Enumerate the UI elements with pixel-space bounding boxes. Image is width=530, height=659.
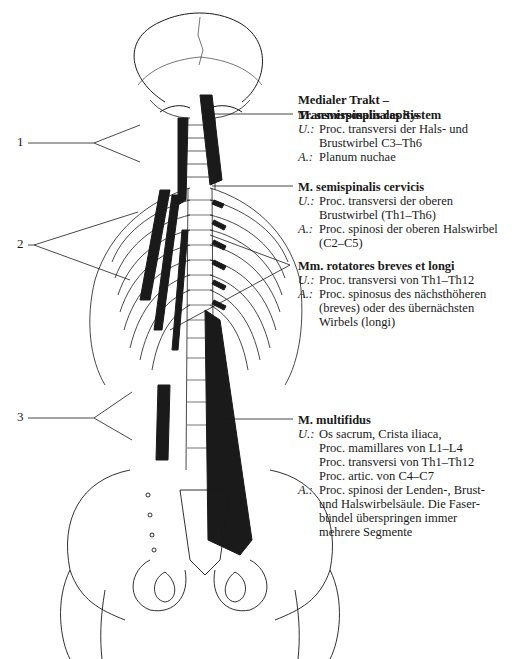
origin-line: Proc. mamillares von L1–L4 [319,441,485,455]
origin-line: Proc. artic. von C4–C7 [319,469,485,483]
insertion-line: Proc. spinosi der Lenden-, Brust- [319,483,485,497]
origin-key: U.: [298,194,319,222]
origin-key: U.: [298,273,319,287]
muscle-semispinalis-capitis: M. semispinalis capitis U.:Proc. transve… [298,108,468,164]
insertion-line: Wirbels (longi) [319,315,486,329]
muscle-semispinalis-cervicis: M. semispinalis cervicis U.:Proc. transv… [298,180,498,250]
cervical-spine-drawing [178,95,222,205]
origin-line: Proc. transversi der Hals- und [319,122,468,136]
insertion-key: A.: [298,150,319,164]
muscle-name: M. semispinalis cervicis [298,180,498,194]
origin-line: Os sacrum, Crista iliaca, [319,427,485,441]
origin-line: Brustwirbel C3–Th6 [319,136,468,150]
insertion-line: Proc. spinosi der oberen Halswirbel [319,222,498,236]
insertion-line: Planum nuchae [319,150,468,164]
insertion-line: und Halswirbelsäule. Die Faser- [319,497,485,511]
skull-drawing [134,13,262,118]
label-number-2: 2 [17,236,24,252]
muscle-name: M. multifidus [298,413,485,427]
label-number-3: 3 [17,409,24,425]
origin-line: Brustwirbel (Th1–Th6) [319,208,498,222]
spine-drawing [140,188,252,555]
muscle-multifidus: M. multifidus U.:Os sacrum, Crista iliac… [298,413,485,539]
title-line-1: Medialer Trakt – [298,93,441,108]
label-number-1: 1 [17,134,24,150]
insertion-line: Proc. spinosus des nächsthöheren [319,287,486,301]
origin-line: Proc. transversi von Th1–Th12 [319,455,485,469]
insertion-key: A.: [298,287,319,329]
insertion-line: (breves) oder des übernächsten [319,301,486,315]
muscle-name: M. semispinalis capitis [298,108,468,122]
muscle-name: Mm. rotatores breves et longi [298,259,486,273]
origin-line: Proc. transversi von Th1–Th12 [319,273,486,287]
muscle-rotatores: Mm. rotatores breves et longi U.:Proc. t… [298,259,486,329]
insertion-key: A.: [298,222,319,250]
anatomy-illustration [0,0,530,659]
insertion-line: mehrere Segmente [319,525,485,539]
insertion-key: A.: [298,483,319,539]
origin-key: U.: [298,427,319,483]
origin-key: U.: [298,122,319,150]
insertion-line: bündel überspringen immer [319,511,485,525]
insertion-line: (C2–C5) [319,236,498,250]
origin-line: Proc. transversi der oberen [319,194,498,208]
